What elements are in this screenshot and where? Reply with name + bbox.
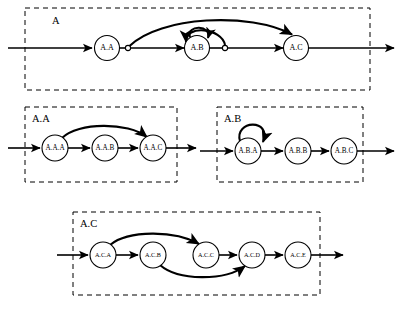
group-A.A-label: A.A [32,113,50,124]
node-A.B-label: A.B [190,43,203,52]
node-A.A.B-label: A.A.B [96,144,115,152]
node-A.A.C-label: A.A.C [144,144,163,152]
node-A.B.C[interactable]: A.B.C [331,138,357,164]
node-A.C.E[interactable]: A.C.E [285,242,311,268]
node-A.A-label: A.A [100,43,114,52]
node-A.C.D-label: A.C.D [244,251,261,258]
node-A.A.A[interactable]: A.A.A [42,135,68,161]
edge-junction1-bypass-to-AC [130,20,293,46]
node-A.C-label: A.C [289,43,302,52]
group-A.B: A.B A.B.A A.B.B A.B.C [200,107,394,182]
node-A.B.A[interactable]: A.B.A [235,138,261,164]
node-A.C.C-label: A.C.C [198,251,214,258]
diagram-svg: A A.A A.B [0,0,402,313]
node-A.C[interactable]: A.C [284,36,309,61]
node-A.C.C[interactable]: A.C.C [193,242,219,268]
junction-after-AA [125,45,130,50]
group-A.C-label: A.C [80,218,97,229]
node-A.B.B-label: A.B.B [289,147,308,155]
node-A.A[interactable]: A.A [95,36,120,61]
node-A.C.E-label: A.C.E [290,251,306,258]
group-A: A A.A A.B [8,8,394,90]
group-A.B-label: A.B [224,113,241,124]
node-A.C.A-label: A.C.A [95,251,112,258]
node-A.A.C[interactable]: A.A.C [140,135,166,161]
group-A-label: A [52,15,60,26]
node-A.A.A-label: A.A.A [45,144,65,152]
node-A.B[interactable]: A.B [185,36,210,61]
node-A.C.A[interactable]: A.C.A [90,242,116,268]
node-A.C.D[interactable]: A.C.D [239,242,265,268]
node-A.B.A-label: A.B.A [239,147,259,155]
group-A.C: A.C A.C.A A.C.B A.C.C [57,212,343,295]
node-A.C.B-label: A.C.B [145,251,161,258]
node-A.B.B[interactable]: A.B.B [285,138,311,164]
diagram-canvas: A A.A A.B [0,0,402,313]
node-A.B.C-label: A.B.C [335,147,354,155]
group-A.A: A.A A.A.A A.A.B A.A.C [8,107,196,182]
junction-after-AB [222,45,227,50]
node-A.C.B[interactable]: A.C.B [140,242,166,268]
node-A.A.B[interactable]: A.A.B [92,135,118,161]
